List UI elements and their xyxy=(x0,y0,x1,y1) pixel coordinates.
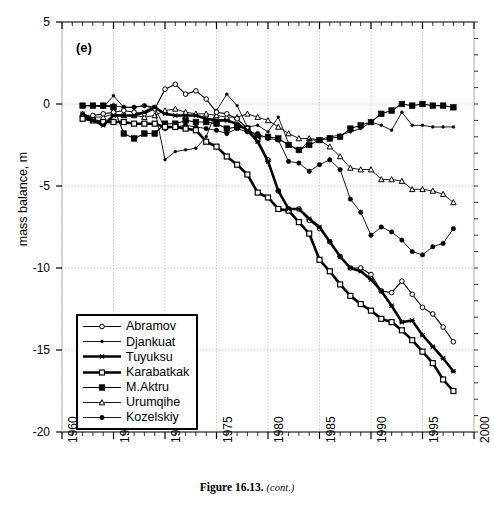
data-point xyxy=(80,103,86,109)
data-point xyxy=(337,134,343,140)
data-point xyxy=(183,92,188,97)
data-point xyxy=(286,142,292,148)
data-point xyxy=(163,87,168,92)
data-point xyxy=(389,320,394,325)
data-point xyxy=(399,178,404,183)
data-point xyxy=(451,104,457,110)
legend-label: M.Aktru xyxy=(126,381,169,394)
chart-figure: mass balance, m (e) 50-5-10-15-201960196… xyxy=(0,0,494,508)
data-point xyxy=(420,101,426,107)
data-point xyxy=(369,233,373,237)
x-tick-label: 1995 xyxy=(428,416,440,443)
y-tick-label: -10 xyxy=(16,262,50,274)
data-point xyxy=(307,231,312,236)
data-point xyxy=(348,126,354,132)
data-point xyxy=(255,114,260,119)
data-point xyxy=(420,305,425,310)
data-point xyxy=(225,112,230,117)
data-point xyxy=(111,120,116,125)
data-point xyxy=(112,94,115,97)
data-point xyxy=(431,244,435,248)
data-point xyxy=(358,123,364,129)
data-point xyxy=(308,139,311,142)
data-point xyxy=(348,197,352,201)
data-point xyxy=(328,158,332,162)
legend-label: Tuyuksu xyxy=(126,351,173,364)
data-point xyxy=(368,119,374,125)
data-point xyxy=(420,253,424,257)
x-tick-label: 1990 xyxy=(376,416,388,443)
data-point xyxy=(163,124,168,129)
y-axis-title: mass balance, m xyxy=(16,114,30,284)
data-point xyxy=(173,82,178,87)
legend-label: Karabatkak xyxy=(126,366,189,379)
data-point xyxy=(204,126,208,130)
data-point xyxy=(441,241,445,245)
data-point xyxy=(410,338,415,343)
y-tick-label: -20 xyxy=(16,426,50,438)
data-point xyxy=(296,136,301,141)
data-point xyxy=(369,308,374,313)
legend-marker xyxy=(99,385,105,391)
caption-continued: (cont.) xyxy=(267,482,295,493)
figure-caption: Figure 16.13. (cont.) xyxy=(0,481,494,493)
data-point xyxy=(430,361,435,366)
data-point xyxy=(399,328,404,333)
x-tick-label: 1985 xyxy=(325,416,337,443)
data-point xyxy=(245,172,250,177)
data-point xyxy=(430,103,436,109)
data-point xyxy=(442,126,445,129)
data-point xyxy=(338,167,342,171)
data-point xyxy=(379,316,384,321)
data-point xyxy=(338,282,343,287)
legend-marker-cross-x-icon xyxy=(82,350,122,363)
data-point xyxy=(358,167,363,172)
legend-label: Djankuat xyxy=(126,336,175,349)
data-point xyxy=(236,104,239,107)
data-point xyxy=(194,89,199,94)
data-point xyxy=(379,225,383,229)
data-point xyxy=(235,162,240,167)
legend-marker xyxy=(99,400,104,405)
x-tick-label: 1975 xyxy=(222,416,234,443)
data-point xyxy=(245,111,250,116)
data-point xyxy=(224,126,230,132)
data-point xyxy=(173,106,178,111)
data-point xyxy=(297,161,301,165)
data-point xyxy=(225,93,228,96)
data-point xyxy=(224,154,229,159)
data-point xyxy=(214,110,219,115)
legend-item-m-aktru: M.Aktru xyxy=(82,380,189,395)
data-point xyxy=(380,124,383,127)
data-point xyxy=(267,130,270,133)
data-point xyxy=(90,103,96,109)
legend-item-urumqihe: Urumqihe xyxy=(82,395,189,410)
data-point xyxy=(142,103,146,107)
legend-marker xyxy=(100,324,105,329)
x-tick-label: 2000 xyxy=(479,416,491,443)
legend-marker-open-triangle-icon xyxy=(82,396,122,409)
data-point xyxy=(306,142,312,148)
legend-item-djankuat: Djankuat xyxy=(82,334,189,349)
data-point xyxy=(100,103,106,109)
data-point xyxy=(173,113,178,117)
legend-marker-open-circle-icon xyxy=(82,320,122,333)
data-point xyxy=(204,139,209,144)
data-point xyxy=(266,195,271,200)
data-point xyxy=(369,272,374,277)
legend-item-kozelskiy: Kozelskiy xyxy=(82,410,189,425)
data-point xyxy=(255,190,260,195)
data-point xyxy=(440,191,445,196)
data-point xyxy=(142,131,148,137)
data-point xyxy=(420,186,425,191)
data-point xyxy=(441,325,446,330)
data-point xyxy=(409,103,415,109)
legend-marker-open-square-icon xyxy=(82,366,122,379)
data-point xyxy=(400,238,404,242)
data-point xyxy=(451,389,456,394)
data-point xyxy=(410,249,414,253)
data-point xyxy=(276,136,282,142)
legend-item-abramov: Abramov xyxy=(82,319,189,334)
data-point xyxy=(400,279,405,284)
data-point xyxy=(276,206,281,211)
